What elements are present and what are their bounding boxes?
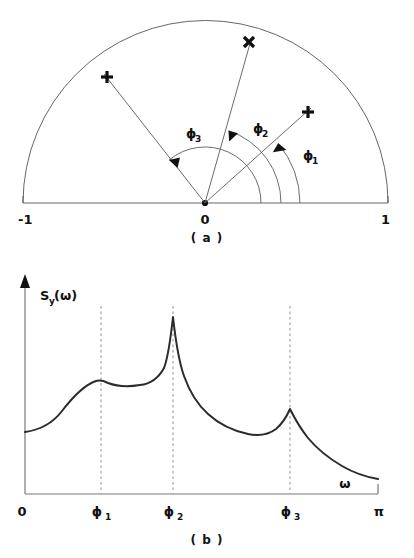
- x-tick-label-phi3: ϕ 3: [281, 504, 300, 522]
- y-axis-label: S y (ω): [40, 288, 77, 306]
- panel-b-caption: ( b ): [191, 533, 224, 547]
- x-tick-label-phi1-base: ϕ: [92, 504, 102, 519]
- y-axis-label-arg: (ω): [54, 288, 77, 303]
- x-tick-label-phi2-base: ϕ: [164, 504, 174, 519]
- axis-label-one: 1: [381, 212, 390, 227]
- panel-b-spectrum-chart: S y (ω) ω 0 ϕ 1 ϕ 2 ϕ 3 π ( b ): [0, 248, 414, 558]
- x-tick-label-0: 0: [17, 504, 26, 519]
- y-axis-label-base: S: [40, 288, 49, 303]
- angle-label-phi2: ϕ 2: [253, 121, 268, 139]
- figure-root: ϕ 1 ϕ 2 ϕ 3 -1 0 1 ( a ): [0, 0, 414, 558]
- panel-a-unit-circle-diagram: ϕ 1 ϕ 2 ϕ 3 -1 0 1 ( a ): [0, 0, 414, 248]
- angle-label-phi3-sub: 3: [195, 134, 201, 144]
- pole-marker-plus-phi1: [302, 106, 314, 118]
- pole-marker-plus-phi3: [101, 71, 113, 83]
- x-axis-label-omega: ω: [339, 476, 350, 491]
- arc-arrowhead-phi1: [273, 143, 287, 152]
- x-tick-label-phi3-sub: 3: [294, 512, 300, 522]
- arc-arrowhead-phi2: [229, 131, 239, 142]
- angle-label-phi3: ϕ 3: [186, 126, 201, 144]
- y-axis-arrowhead: [20, 274, 30, 288]
- x-tick-label-phi2: ϕ 2: [164, 504, 183, 522]
- x-tick-label-phi3-base: ϕ: [281, 504, 291, 519]
- unit-semicircle: [23, 20, 388, 203]
- ray-to-pole-phi2: [205, 40, 251, 203]
- x-tick-label-phi1-sub: 1: [105, 512, 111, 522]
- axis-label-origin: 0: [200, 212, 209, 227]
- axis-label-minus-one: -1: [18, 212, 32, 227]
- spectrum-curve: [25, 317, 378, 479]
- angle-arc-phi1: [278, 143, 300, 203]
- x-tick-label-pi-base: π: [374, 504, 384, 519]
- x-tick-label-phi2-sub: 2: [177, 512, 183, 522]
- x-tick-label-phi1: ϕ 1: [92, 504, 111, 522]
- angle-label-phi2-sub: 2: [262, 129, 268, 139]
- x-tick-label-0-base: 0: [17, 504, 26, 519]
- angle-label-phi1: ϕ 1: [303, 148, 318, 166]
- angle-label-phi1-sub: 1: [312, 156, 318, 166]
- x-tick-label-pi: π: [374, 504, 384, 519]
- panel-a-caption: ( a ): [191, 231, 223, 245]
